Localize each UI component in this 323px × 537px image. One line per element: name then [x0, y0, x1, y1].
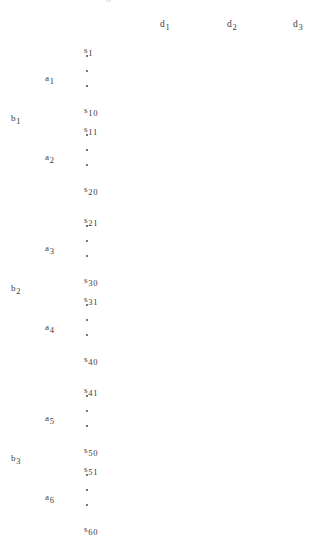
- group-label-a2: a2: [45, 147, 54, 163]
- column-header-d3-base: d: [293, 19, 298, 29]
- column-header-d2-subscript: 2: [233, 22, 238, 32]
- list-item-s30-subscript: 30: [88, 278, 98, 288]
- list-item-s11: s11: [84, 119, 97, 135]
- list-item-s1: s1: [84, 40, 93, 56]
- list-item-s31: s31: [84, 289, 98, 305]
- ellipsis-dot: [86, 134, 88, 136]
- ellipsis-dot: [86, 225, 88, 227]
- group-label-b1: b1: [11, 108, 21, 124]
- group-label-a2-base: a: [45, 152, 49, 162]
- group-label-a4-subscript: 4: [50, 325, 55, 335]
- ellipsis-dot: [86, 70, 88, 72]
- group-label-a1-base: a: [45, 73, 49, 83]
- ellipsis-dot: [86, 474, 88, 476]
- group-label-a3-base: a: [45, 243, 49, 253]
- list-item-s1-subscript: 1: [88, 48, 93, 58]
- column-header-d2: d2: [227, 14, 237, 30]
- ellipsis-dot: [86, 55, 88, 57]
- group-label-a3: a3: [45, 238, 54, 254]
- list-item-s41: s41: [84, 380, 98, 396]
- ellipsis-dot: [86, 504, 88, 506]
- list-item-s60-subscript: 60: [88, 527, 98, 537]
- ellipsis-dot: [86, 489, 88, 491]
- list-item-s11-subscript: 11: [88, 127, 98, 137]
- group-label-b2-base: b: [11, 283, 16, 293]
- group-label-a3-subscript: 3: [50, 246, 55, 256]
- ellipsis-dot: [86, 319, 88, 321]
- ellipsis-dot: [86, 164, 88, 166]
- list-item-s40-subscript: 40: [88, 357, 98, 367]
- ellipsis-dot: [86, 425, 88, 427]
- list-item-s20-subscript: 20: [88, 187, 98, 197]
- list-item-s10-subscript: 10: [88, 108, 98, 118]
- list-item-s10: s10: [84, 100, 98, 116]
- ellipsis-dot: [86, 395, 88, 397]
- list-item-s51: s51: [84, 459, 98, 475]
- list-item-s21: s21: [84, 210, 98, 226]
- group-label-a1-subscript: 1: [50, 76, 55, 86]
- column-header-d3: d3: [293, 14, 303, 30]
- column-header-d1-subscript: 1: [166, 22, 171, 32]
- ellipsis-dot: [86, 334, 88, 336]
- list-item-s21-subscript: 21: [88, 218, 98, 228]
- list-item-s20: s20: [84, 179, 98, 195]
- group-label-a6: a6: [45, 487, 54, 503]
- list-item-s50: s50: [84, 440, 98, 456]
- ellipsis-dot: [86, 255, 88, 257]
- group-label-b3-base: b: [11, 453, 16, 463]
- clipped-top-glyph: g: [106, 0, 115, 3]
- list-item-s51-subscript: 51: [88, 467, 98, 477]
- group-label-b3-subscript: 3: [16, 456, 21, 466]
- group-label-a6-subscript: 6: [50, 495, 55, 505]
- group-label-a5-base: a: [45, 413, 49, 423]
- list-item-s50-subscript: 50: [88, 448, 98, 458]
- group-label-b3: b3: [11, 448, 21, 464]
- list-item-s40: s40: [84, 349, 98, 365]
- ellipsis-dot: [86, 85, 88, 87]
- column-header-d2-base: d: [227, 19, 232, 29]
- group-label-a5: a5: [45, 408, 54, 424]
- group-label-a2-subscript: 2: [50, 155, 55, 165]
- group-label-b2: b2: [11, 278, 21, 294]
- list-item-s41-subscript: 41: [88, 388, 98, 398]
- group-label-a4-base: a: [45, 322, 49, 332]
- group-label-a5-subscript: 5: [50, 416, 55, 426]
- group-label-b1-subscript: 1: [16, 116, 21, 126]
- column-header-d3-subscript: 3: [299, 22, 304, 32]
- column-header-d1: d1: [160, 14, 170, 30]
- group-label-a1: a1: [45, 68, 54, 84]
- group-label-b2-subscript: 2: [16, 286, 21, 296]
- group-label-a4: a4: [45, 317, 54, 333]
- group-label-a6-base: a: [45, 492, 49, 502]
- clipped-top-glyph-text: g: [106, 0, 115, 2]
- ellipsis-dot: [86, 149, 88, 151]
- list-item-s30: s30: [84, 270, 98, 286]
- ellipsis-dot: [86, 304, 88, 306]
- column-header-d1-base: d: [160, 19, 165, 29]
- list-item-s60: s60: [84, 519, 98, 535]
- ellipsis-dot: [86, 240, 88, 242]
- ellipsis-dot: [86, 410, 88, 412]
- list-item-s31-subscript: 31: [88, 297, 98, 307]
- group-label-b1-base: b: [11, 113, 16, 123]
